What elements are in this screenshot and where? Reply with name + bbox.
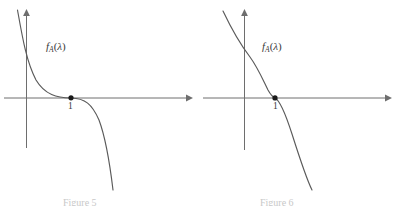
plot-diagram-left bbox=[0, 0, 200, 206]
figure-panel-left: fA(λ) 1 Figure 5 bbox=[0, 0, 200, 206]
figure-panel-right: fA(λ) 1 Figure 6 bbox=[200, 0, 400, 206]
function-label-left: fA(λ) bbox=[46, 40, 66, 54]
y-axis-arrowhead-icon bbox=[241, 9, 248, 16]
function-curve bbox=[18, 10, 114, 190]
function-label-close-paren: ) bbox=[62, 40, 66, 52]
figure-caption-left: Figure 5 bbox=[63, 197, 153, 206]
figure-page: fA(λ) 1 Figure 5 fA(λ) 1 Figure 6 bbox=[0, 0, 400, 206]
function-label-close-paren: ) bbox=[278, 40, 282, 52]
function-label-right: fA(λ) bbox=[262, 40, 282, 54]
x-axis-arrowhead-icon bbox=[186, 95, 193, 102]
root-tick-label-left: 1 bbox=[68, 101, 73, 111]
y-axis-arrowhead-icon bbox=[23, 9, 30, 16]
x-axis-arrowhead-icon bbox=[385, 95, 392, 102]
figure-caption-right: Figure 6 bbox=[260, 197, 350, 206]
function-curve bbox=[223, 11, 312, 190]
root-point-marker bbox=[272, 95, 277, 100]
root-point-marker bbox=[68, 95, 73, 100]
plot-diagram-right bbox=[200, 0, 400, 206]
root-tick-label-right: 1 bbox=[273, 101, 278, 111]
